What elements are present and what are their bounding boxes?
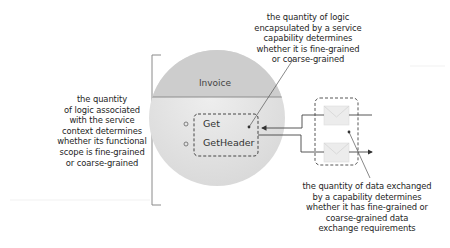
annotation-line: scope is fine-grained: [52, 147, 152, 158]
annotation-line: the quantity: [52, 94, 152, 105]
pointer-dot-capability: [248, 126, 251, 129]
annotation-line: context determines: [52, 126, 152, 137]
annotation-line: capability determines: [238, 33, 378, 44]
envelope-icon: [324, 143, 349, 162]
envelope-icon: [324, 106, 349, 125]
pointer-dot-message: [348, 131, 351, 134]
annotation-line: by a capability determines: [288, 192, 446, 203]
annotation-line: coarse-grained data: [288, 213, 446, 224]
annotation-service-scope: the quantity of logic associated with th…: [52, 94, 152, 168]
capability-getheader: GetHeader: [203, 137, 255, 148]
annotation-line: or coarse-grained: [238, 54, 378, 65]
annotation-line: with the service: [52, 115, 152, 126]
annotation-line: whether it is fine-grained: [238, 44, 378, 55]
service-name: Invoice: [180, 78, 250, 88]
annotation-line: whether its functional: [52, 136, 152, 147]
annotation-line: whether it has fine-grained or: [288, 202, 446, 213]
annotation-line: the quantity of logic: [238, 12, 378, 23]
annotation-line: exchange requirements: [288, 223, 446, 234]
annotation-line: the quantity of data exchanged: [288, 181, 446, 192]
annotation-line: encapsulated by a service: [238, 23, 378, 34]
capability-get: Get: [203, 118, 220, 129]
annotation-line: or coarse-grained: [52, 158, 152, 169]
annotation-line: of logic associated: [52, 105, 152, 116]
annotation-data-exchange: the quantity of data exchanged by a capa…: [288, 181, 446, 234]
annotation-capability-logic: the quantity of logic encapsulated by a …: [238, 12, 378, 65]
